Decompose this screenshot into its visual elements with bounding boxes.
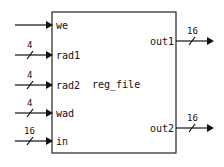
port-label: out1 bbox=[150, 36, 174, 47]
arrow-right-icon bbox=[207, 124, 214, 132]
arrow-right-icon bbox=[207, 37, 214, 45]
port-label: rad2 bbox=[56, 80, 80, 91]
reg-file-diagram: reg_file we 4 rad1 4 rad2 4 wad 16 in ou… bbox=[0, 0, 224, 167]
port-label: out2 bbox=[150, 123, 174, 134]
port-label: in bbox=[56, 136, 68, 147]
bus-width: 4 bbox=[27, 40, 32, 50]
input-we: we bbox=[15, 20, 68, 31]
bus-width: 16 bbox=[24, 126, 35, 136]
bus-width: 16 bbox=[187, 26, 198, 36]
bus-width: 4 bbox=[27, 70, 32, 80]
module-name: reg_file bbox=[92, 79, 140, 91]
bus-width: 4 bbox=[27, 98, 32, 108]
bus-width: 16 bbox=[187, 113, 198, 123]
port-label: rad1 bbox=[56, 50, 80, 61]
port-label: we bbox=[56, 20, 68, 31]
port-label: wad bbox=[56, 108, 74, 119]
